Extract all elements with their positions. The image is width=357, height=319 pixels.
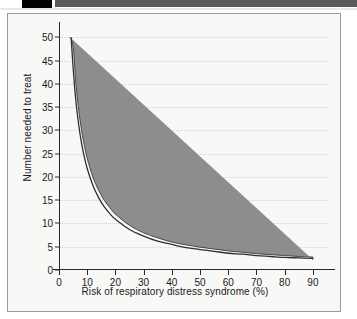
plot-area: 05101520253035404550 0102030405060708090 (59, 28, 327, 270)
gray-header-bar (55, 0, 357, 7)
x-tick-mark (87, 270, 88, 275)
curve-svg (59, 28, 327, 270)
x-tick-label: 60 (223, 277, 234, 288)
y-tick-label: 15 (42, 195, 53, 206)
x-tick-mark (200, 270, 201, 275)
x-tick-label: 70 (251, 277, 262, 288)
y-tick-label: 20 (42, 171, 53, 182)
figure-panel: Number needed to treat Risk of respirato… (7, 13, 341, 312)
y-axis-label: Number needed to treat (22, 33, 33, 223)
x-tick-mark (256, 270, 257, 275)
x-tick-label: 40 (166, 277, 177, 288)
y-tick-label: 30 (42, 125, 53, 136)
y-tick-label: 45 (42, 55, 53, 66)
top-bar (0, 0, 357, 9)
x-tick-label: 30 (138, 277, 149, 288)
x-tick-mark (285, 270, 286, 275)
y-tick-label: 50 (42, 32, 53, 43)
x-tick-label: 80 (279, 277, 290, 288)
x-tick-mark (172, 270, 173, 275)
x-tick-mark (228, 270, 229, 275)
x-tick-label: 90 (307, 277, 318, 288)
y-tick-label: 10 (42, 218, 53, 229)
y-tick-label: 5 (47, 241, 53, 252)
confidence-band (70, 37, 313, 259)
header-divider (0, 8, 357, 10)
black-marker (22, 0, 52, 8)
x-tick-label: 50 (194, 277, 205, 288)
x-tick-mark (313, 270, 314, 275)
x-tick-mark (115, 270, 116, 275)
y-tick-label: 0 (47, 265, 53, 276)
y-tick-label: 35 (42, 102, 53, 113)
x-tick-label: 10 (82, 277, 93, 288)
x-tick-label: 20 (110, 277, 121, 288)
y-tick-label: 40 (42, 78, 53, 89)
x-tick-mark (144, 270, 145, 275)
x-tick-label: 0 (56, 277, 62, 288)
x-tick-mark (59, 270, 60, 275)
y-tick-label: 25 (42, 148, 53, 159)
